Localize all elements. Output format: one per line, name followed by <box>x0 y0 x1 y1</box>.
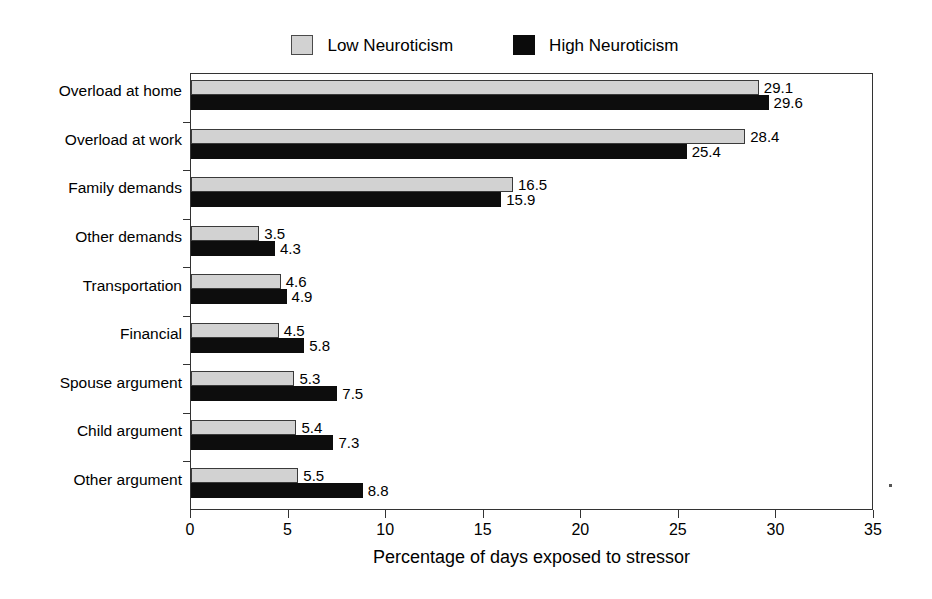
legend-entry-high-neuroticism: High Neuroticism <box>513 35 678 55</box>
bar-value-low-5: 4.6 <box>286 274 307 289</box>
bar-group-8: 5.47.3 <box>191 414 872 463</box>
bar-low-neuroticism-4 <box>191 226 259 241</box>
bar-high-neuroticism-9 <box>191 483 363 498</box>
bar-low-neuroticism-3 <box>191 177 513 192</box>
bar-high-neuroticism-3 <box>191 192 501 207</box>
bar-value-low-8: 5.4 <box>301 420 322 435</box>
x-axis-tick-label-5: 5 <box>283 521 292 539</box>
category-label-7: Spouse argument <box>0 375 182 391</box>
bar-low-neuroticism-2 <box>191 129 745 144</box>
high-neuroticism-swatch-icon <box>513 35 535 55</box>
bar-group-5: 4.64.9 <box>191 268 872 317</box>
bar-group-6: 4.55.8 <box>191 317 872 366</box>
bar-value-high-9: 8.8 <box>368 483 389 498</box>
bar-value-high-5: 4.9 <box>292 289 313 304</box>
bar-group-3: 16.515.9 <box>191 171 872 220</box>
category-label-3: Family demands <box>0 180 182 196</box>
category-label-2: Overload at work <box>0 132 182 148</box>
x-axis-ticks <box>190 510 873 520</box>
legend-entry-low-neuroticism: Low Neuroticism <box>291 35 453 55</box>
bar-group-2: 28.425.4 <box>191 123 872 172</box>
bar-value-high-3: 15.9 <box>506 192 535 207</box>
legend-label-low-neuroticism: Low Neuroticism <box>327 37 453 54</box>
scan-speck <box>889 484 892 487</box>
bar-low-neuroticism-1 <box>191 80 759 95</box>
chart-legend: Low Neuroticism High Neuroticism <box>270 28 700 62</box>
x-axis-tick-label-20: 20 <box>571 521 589 539</box>
bar-value-high-7: 7.5 <box>342 386 363 401</box>
x-axis-tick-label-25: 25 <box>669 521 687 539</box>
x-axis-tick-label-30: 30 <box>767 521 785 539</box>
category-label-4: Other demands <box>0 229 182 245</box>
x-axis-tick-labels: 05101520253035 <box>190 521 873 543</box>
bar-value-low-3: 16.5 <box>518 177 547 192</box>
bar-value-high-8: 7.3 <box>338 435 359 450</box>
low-neuroticism-swatch-icon <box>291 35 313 55</box>
bar-value-high-1: 29.6 <box>774 95 803 110</box>
bar-value-low-4: 3.5 <box>264 226 285 241</box>
x-axis-tick-label-15: 15 <box>474 521 492 539</box>
x-axis-tick-0 <box>190 510 191 518</box>
category-label-8: Child argument <box>0 423 182 439</box>
bar-value-high-6: 5.8 <box>309 338 330 353</box>
bar-group-4: 3.54.3 <box>191 220 872 269</box>
bar-high-neuroticism-2 <box>191 144 687 159</box>
x-axis-tick-35 <box>873 510 874 518</box>
category-label-6: Financial <box>0 326 182 342</box>
bar-high-neuroticism-1 <box>191 95 769 110</box>
bar-value-low-2: 28.4 <box>750 129 779 144</box>
x-axis-tick-10 <box>385 510 386 518</box>
x-axis-tick-20 <box>580 510 581 518</box>
x-axis-tick-25 <box>678 510 679 518</box>
bar-high-neuroticism-6 <box>191 338 304 353</box>
bar-low-neuroticism-8 <box>191 420 296 435</box>
bar-value-low-1: 29.1 <box>764 80 793 95</box>
bar-high-neuroticism-5 <box>191 289 287 304</box>
bar-group-7: 5.37.5 <box>191 365 872 414</box>
bar-high-neuroticism-7 <box>191 386 337 401</box>
bar-high-neuroticism-8 <box>191 435 333 450</box>
x-axis-title: Percentage of days exposed to stressor <box>190 546 873 568</box>
bar-chart-figure: Low Neuroticism High Neuroticism Overloa… <box>0 0 932 599</box>
legend-label-high-neuroticism: High Neuroticism <box>549 37 678 54</box>
x-axis-tick-5 <box>288 510 289 518</box>
bar-value-high-4: 4.3 <box>280 241 301 256</box>
bar-value-low-7: 5.3 <box>299 371 320 386</box>
x-axis-tick-15 <box>483 510 484 518</box>
bar-group-9: 5.58.8 <box>191 462 872 511</box>
bar-low-neuroticism-5 <box>191 274 281 289</box>
y-axis-category-labels: Overload at homeOverload at workFamily d… <box>0 73 182 510</box>
bar-value-low-9: 5.5 <box>303 468 324 483</box>
bar-low-neuroticism-9 <box>191 468 298 483</box>
x-axis-tick-30 <box>775 510 776 518</box>
category-label-1: Overload at home <box>0 83 182 99</box>
bar-value-high-2: 25.4 <box>692 144 721 159</box>
plot-area: 29.129.628.425.416.515.93.54.34.64.94.55… <box>190 73 873 510</box>
x-axis-tick-label-35: 35 <box>864 521 882 539</box>
bar-low-neuroticism-7 <box>191 371 294 386</box>
bar-value-low-6: 4.5 <box>284 323 305 338</box>
bar-group-1: 29.129.6 <box>191 74 872 123</box>
category-label-9: Other argument <box>0 472 182 488</box>
x-axis-tick-label-10: 10 <box>376 521 394 539</box>
x-axis-tick-label-0: 0 <box>186 521 195 539</box>
category-label-5: Transportation <box>0 278 182 294</box>
bar-low-neuroticism-6 <box>191 323 279 338</box>
bar-high-neuroticism-4 <box>191 241 275 256</box>
